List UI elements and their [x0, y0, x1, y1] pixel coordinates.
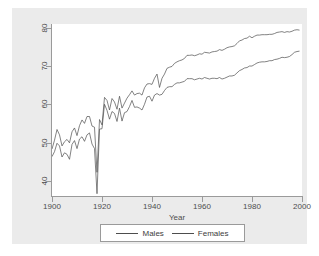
x-tick-label: 1940: [135, 202, 169, 212]
legend-entry-males[interactable]: Males: [116, 229, 163, 238]
x-tick-label: 2000: [285, 202, 319, 212]
y-tick-label: 40: [40, 170, 50, 192]
x-axis-title: Year: [52, 213, 302, 222]
x-tick-label: 1900: [35, 202, 69, 212]
y-tick-label: 80: [40, 17, 50, 39]
x-axis-line: [51, 196, 303, 197]
series-line-males: [52, 51, 300, 194]
legend-line-icon-females: [172, 233, 194, 234]
graph-region: 4050607080 190019201940196019802000 Year…: [12, 8, 307, 244]
y-axis-line: [51, 24, 52, 197]
y-tick-label: 70: [40, 55, 50, 77]
plot-area: [52, 24, 302, 196]
figure: 4050607080 190019201940196019802000 Year…: [0, 0, 319, 256]
series-line-females: [52, 30, 300, 173]
y-tick-label: 60: [40, 93, 50, 115]
line-chart-svg: [52, 24, 302, 196]
chart-legend: Males Females: [100, 224, 245, 242]
series-paths: [52, 30, 300, 194]
legend-label-males: Males: [142, 229, 163, 238]
x-tick-label: 1980: [235, 202, 269, 212]
x-tick-label: 1920: [85, 202, 119, 212]
legend-entry-females[interactable]: Females: [172, 229, 229, 238]
legend-label-females: Females: [198, 229, 229, 238]
legend-line-icon-males: [116, 233, 138, 234]
x-tick-label: 1960: [185, 202, 219, 212]
y-tick-label: 50: [40, 132, 50, 154]
